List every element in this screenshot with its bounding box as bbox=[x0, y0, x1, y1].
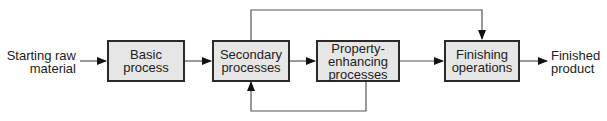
output-label: Finished product bbox=[551, 49, 607, 75]
arrow-top-bypass bbox=[251, 10, 482, 40]
input-label: Starting raw material bbox=[6, 49, 76, 75]
property-enhancing-processes-box: Property-enhancing processes bbox=[316, 40, 400, 82]
box-label-line2: operations bbox=[452, 61, 513, 74]
box-label-line2: process bbox=[123, 61, 169, 74]
input-label-line2: material bbox=[6, 62, 76, 75]
finishing-operations-box: Finishing operations bbox=[444, 40, 520, 82]
output-label-line2: product bbox=[551, 62, 607, 75]
basic-process-box: Basic process bbox=[107, 40, 185, 82]
box-label-line2: processes bbox=[221, 61, 280, 74]
box-label-line2: processes bbox=[328, 68, 387, 81]
secondary-processes-box: Secondary processes bbox=[212, 40, 290, 82]
box-label-line1: Property-enhancing bbox=[318, 42, 398, 68]
arrow-bottom-feedback bbox=[251, 81, 366, 111]
